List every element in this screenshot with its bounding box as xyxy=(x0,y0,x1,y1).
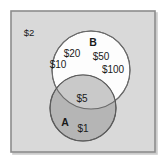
universe-label-2: $2 xyxy=(24,27,35,38)
set-b-member-50: $50 xyxy=(93,51,110,62)
set-b-member-10: $10 xyxy=(50,59,67,70)
set-a-label: A xyxy=(61,116,69,128)
intersection-member-5: $5 xyxy=(76,93,88,104)
set-b-label: B xyxy=(89,36,97,48)
set-b-member-20: $20 xyxy=(64,48,81,59)
set-b-member-100: $100 xyxy=(102,64,125,75)
set-a-member-1: $1 xyxy=(77,123,89,134)
venn-diagram-figure: $2 B $20 $50 $10 $100 $5 A $1 xyxy=(0,0,167,165)
venn-diagram-canvas: $2 B $20 $50 $10 $100 $5 A $1 xyxy=(0,0,167,165)
